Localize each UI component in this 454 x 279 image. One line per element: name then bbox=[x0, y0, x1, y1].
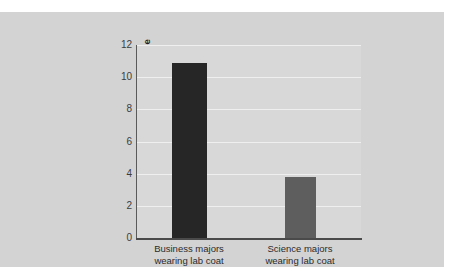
figure-panel: Evaluation of the chosen album after the… bbox=[0, 12, 444, 267]
y-tick-label-12: 12 bbox=[110, 40, 132, 50]
y-tick-label-6: 6 bbox=[110, 137, 132, 147]
bars-layer bbox=[136, 45, 362, 238]
y-tick-label-10: 10 bbox=[110, 72, 132, 82]
x-axis-line bbox=[136, 238, 362, 240]
x-tick-label-business-majors: Business majors wearing lab coat bbox=[134, 243, 244, 266]
bar-science-majors[interactable] bbox=[285, 177, 316, 238]
bar-business-majors[interactable] bbox=[172, 63, 207, 238]
x-tick-label-business-majors-line-2: wearing lab coat bbox=[134, 255, 244, 267]
x-tick-label-science-majors: Science majors wearing lab coat bbox=[245, 243, 355, 266]
y-tick-label-8: 8 bbox=[110, 104, 132, 114]
chart-screenshot: Evaluation of the chosen album after the… bbox=[0, 0, 454, 279]
y-tick-label-0: 0 bbox=[110, 233, 132, 243]
x-tick-label-science-majors-line-1: Science majors bbox=[245, 243, 355, 255]
y-tick-label-4: 4 bbox=[110, 169, 132, 179]
x-tick-label-business-majors-line-1: Business majors bbox=[134, 243, 244, 255]
y-axis-ticks: 12 10 8 6 4 2 0 bbox=[108, 45, 132, 238]
y-tick-label-2: 2 bbox=[110, 201, 132, 211]
x-tick-label-science-majors-line-2: wearing lab coat bbox=[245, 255, 355, 267]
